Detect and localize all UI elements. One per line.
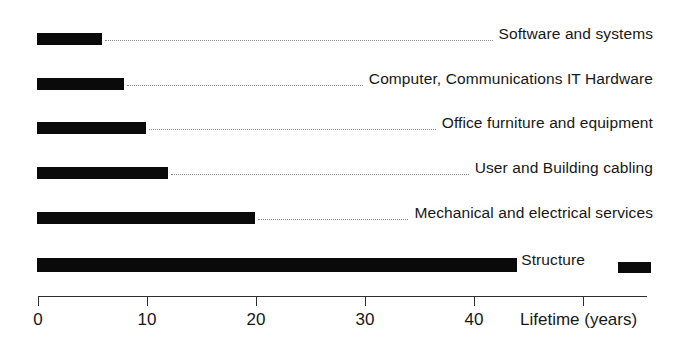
leader-line: [258, 219, 408, 220]
bar-label: Mechanical and electrical services: [414, 204, 653, 222]
axis-tick-label: 20: [247, 310, 266, 330]
axis-tick: [38, 296, 39, 306]
chart-row: Software and systems: [0, 24, 686, 54]
plot-area: Software and systems Computer, Communica…: [0, 0, 686, 297]
bar-label: Office furniture and equipment: [442, 114, 653, 132]
axis-tick-label: 30: [356, 310, 375, 330]
chart-row: Office furniture and equipment: [0, 113, 686, 143]
axis-tick-label: 10: [138, 310, 157, 330]
leader-line: [171, 174, 469, 175]
chart-row: User and Building cabling: [0, 158, 686, 188]
chart-row: Mechanical and electrical services: [0, 203, 686, 233]
bar-label: User and Building cabling: [475, 159, 653, 177]
axis-line: [38, 296, 647, 297]
bar-software-and-systems: [37, 33, 102, 45]
axis-tick-label: 40: [465, 310, 484, 330]
bar-user-and-building-cabling: [37, 167, 168, 179]
bar-label: Structure: [521, 251, 585, 269]
axis-tick: [256, 296, 257, 306]
chart-row: Computer, Communications IT Hardware: [0, 69, 686, 99]
leader-line: [149, 129, 436, 130]
chart-row: Structure: [0, 250, 686, 280]
axis-title: Lifetime (years): [520, 310, 637, 330]
axis-tick: [474, 296, 475, 306]
bar-office-furniture-and-equipment: [37, 122, 146, 134]
lifetime-bar-chart: Software and systems Computer, Communica…: [0, 0, 686, 355]
bar-mechanical-and-electrical-services: [37, 212, 255, 224]
bar-computer-communications-it-hardware: [37, 78, 124, 90]
bar-label: Computer, Communications IT Hardware: [369, 70, 653, 88]
axis-tick: [583, 296, 584, 306]
bar-structure: [37, 258, 517, 272]
axis-tick: [365, 296, 366, 306]
legend-swatch-structure: [618, 262, 651, 273]
leader-line: [127, 85, 363, 86]
axis-tick: [147, 296, 148, 306]
bar-label: Software and systems: [499, 25, 653, 43]
x-axis: 010203040 Lifetime (years): [0, 296, 686, 355]
axis-tick-label: 0: [33, 310, 42, 330]
leader-line: [105, 40, 492, 41]
